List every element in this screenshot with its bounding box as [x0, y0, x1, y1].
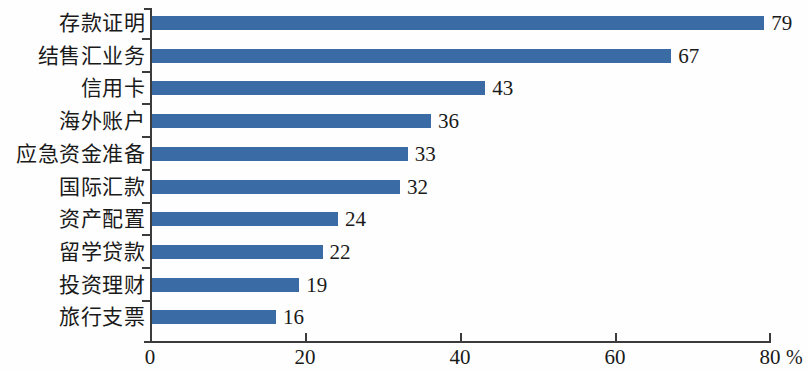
bar [152, 81, 485, 95]
bar [152, 245, 323, 259]
y-axis-tick [142, 38, 151, 40]
y-axis-tick [142, 103, 151, 105]
x-axis-tick [305, 333, 307, 342]
bar-value-label: 24 [345, 209, 366, 230]
category-label: 存款证明 [0, 13, 145, 34]
bar-value-label: 33 [415, 144, 436, 165]
bar-value-label: 16 [283, 307, 304, 328]
y-axis-tick [142, 234, 151, 236]
bar-value-label: 43 [492, 78, 513, 99]
category-label: 信用卡 [0, 78, 145, 99]
y-axis-tick [142, 136, 151, 138]
plot-area: 存款证明79结售汇业务67信用卡43海外账户36应急资金准备33国际汇款32资产… [0, 0, 809, 371]
x-axis-tick-label: 60 [585, 346, 645, 369]
y-axis-tick [142, 202, 151, 204]
bar [152, 180, 400, 194]
x-axis-tick [460, 333, 462, 342]
bar-value-label: 32 [407, 177, 428, 198]
y-axis-tick [142, 169, 151, 171]
bar [152, 114, 431, 128]
category-label: 国际汇款 [0, 177, 145, 198]
bar-chart: 存款证明79结售汇业务67信用卡43海外账户36应急资金准备33国际汇款32资产… [0, 0, 809, 371]
x-axis-end-cap [769, 333, 771, 342]
x-axis-tick [615, 333, 617, 342]
bar [152, 212, 338, 226]
category-label: 旅行支票 [0, 307, 145, 328]
bar-value-label: 22 [330, 242, 351, 263]
category-label: 应急资金准备 [0, 144, 145, 165]
bar-value-label: 36 [438, 111, 459, 132]
category-label: 海外账户 [0, 111, 145, 132]
category-label: 资产配置 [0, 209, 145, 230]
bar [152, 16, 764, 30]
bar [152, 310, 276, 324]
y-axis-tick [142, 300, 151, 302]
y-axis-tick [142, 267, 151, 269]
bar [152, 278, 299, 292]
bar-value-label: 79 [771, 13, 792, 34]
bar [152, 147, 408, 161]
bar-value-label: 19 [306, 275, 327, 296]
y-axis-top-cap [144, 8, 152, 10]
category-label: 投资理财 [0, 275, 145, 296]
y-axis-tick [142, 71, 151, 73]
x-axis-tick-label: 40 [430, 346, 490, 369]
bar-value-label: 67 [678, 46, 699, 67]
x-axis-unit-label: % [786, 346, 803, 369]
category-label: 留学贷款 [0, 242, 145, 263]
x-axis-tick-label: 0 [120, 346, 180, 369]
bar [152, 49, 671, 63]
category-label: 结售汇业务 [0, 46, 145, 67]
x-axis-tick-label: 20 [275, 346, 335, 369]
